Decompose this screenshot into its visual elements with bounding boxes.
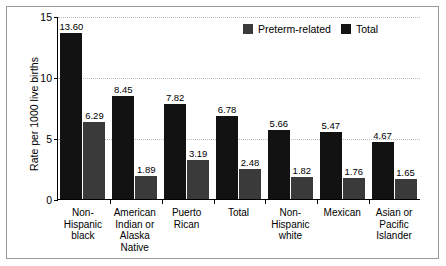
y-tick-label-10: 10 — [40, 72, 52, 84]
x-axis-label-line: Non- — [264, 207, 316, 219]
bar-total: 7.82 — [164, 104, 186, 199]
bar-value-label: 13.60 — [60, 21, 84, 32]
x-axis-label-line: Indian or — [109, 219, 161, 231]
x-axis-tick — [317, 199, 318, 204]
gridline-15 — [58, 17, 420, 18]
x-axis-label-line: American — [109, 207, 161, 219]
y-tick-mark-10 — [54, 78, 58, 79]
bar-total: 6.78 — [216, 116, 238, 199]
bar-total: 5.47 — [320, 132, 342, 199]
x-axis-label-line: Alaska — [109, 230, 161, 242]
x-axis-label-4: Non-Hispanicwhite — [264, 207, 316, 242]
x-axis-tick — [110, 199, 111, 204]
x-axis-label-2: PuertoRican — [161, 207, 213, 230]
legend-label: Preterm-related — [258, 23, 331, 35]
bar-value-label: 4.67 — [373, 130, 392, 141]
x-axis-label-3: Total — [213, 207, 265, 219]
bar-preterm: 1.76 — [343, 178, 365, 199]
x-axis-tick — [214, 199, 215, 204]
bar-value-label: 1.65 — [396, 167, 415, 178]
x-axis-tick — [265, 199, 266, 204]
bar-value-label: 5.66 — [270, 118, 289, 129]
legend-swatch-icon — [341, 24, 351, 34]
y-axis-title: Rate per 1000 live births — [28, 34, 40, 194]
bar-value-label: 1.76 — [344, 166, 363, 177]
y-tick-label-0: 0 — [46, 194, 52, 206]
x-axis-tick — [369, 199, 370, 204]
x-axis-label-line: Pacific — [368, 219, 420, 231]
bar-total: 8.45 — [112, 96, 134, 199]
x-axis-label-5: Mexican — [316, 207, 368, 219]
x-axis-label-0: Non-Hispanicblack — [57, 207, 109, 242]
bar-total: 4.67 — [372, 142, 394, 199]
x-axis-label-line: Hispanic — [264, 219, 316, 231]
bar-value-label: 2.48 — [241, 157, 260, 168]
x-axis-label-line: Puerto — [161, 207, 213, 219]
x-axis-label-line: black — [57, 230, 109, 242]
bar-preterm: 1.65 — [395, 179, 417, 199]
y-tick-mark-15 — [54, 17, 58, 18]
x-axis-label-line: Native — [109, 242, 161, 254]
legend-entry: Total — [341, 23, 378, 35]
bar-value-label: 3.19 — [189, 148, 208, 159]
x-axis-label-line: Rican — [161, 219, 213, 231]
bar-value-label: 6.78 — [218, 104, 237, 115]
x-axis-tick — [162, 199, 163, 204]
x-axis-label-line: Non- — [57, 207, 109, 219]
chart-legend: Preterm-relatedTotal — [243, 23, 378, 35]
gridline-10 — [58, 78, 420, 79]
x-axis-label-line: Asian or — [368, 207, 420, 219]
y-tick-label-15: 15 — [40, 11, 52, 23]
x-axis-label-line: Hispanic — [57, 219, 109, 231]
bar-preterm: 3.19 — [187, 160, 209, 199]
bar-value-label: 5.47 — [321, 120, 340, 131]
x-axis-label-1: AmericanIndian orAlaskaNative — [109, 207, 161, 253]
x-axis-label-line: Total — [213, 207, 265, 219]
x-axis-label-6: Asian orPacificIslander — [368, 207, 420, 242]
bar-total: 13.60 — [60, 33, 82, 199]
chart-screenshot: Rate per 1000 live births 15105013.606.2… — [0, 0, 446, 266]
x-axis-label-line: Mexican — [316, 207, 368, 219]
bar-value-label: 1.82 — [293, 165, 312, 176]
bar-preterm: 6.29 — [83, 122, 105, 199]
legend-label: Total — [356, 23, 378, 35]
x-axis-label-line: white — [264, 230, 316, 242]
bar-value-label: 6.29 — [85, 110, 104, 121]
bar-preterm: 1.82 — [291, 177, 313, 199]
bar-value-label: 7.82 — [166, 92, 185, 103]
y-tick-mark-0 — [54, 200, 58, 201]
legend-entry: Preterm-related — [243, 23, 331, 35]
bar-total: 5.66 — [268, 130, 290, 199]
bar-preterm: 2.48 — [239, 169, 261, 199]
bar-value-label: 8.45 — [114, 84, 133, 95]
bar-preterm: 1.89 — [135, 176, 157, 199]
bar-value-label: 1.89 — [137, 164, 156, 175]
legend-swatch-icon — [243, 24, 253, 34]
y-tick-mark-5 — [54, 139, 58, 140]
x-axis-label-line: Islander — [368, 230, 420, 242]
plot-area: 15105013.606.298.451.897.823.196.782.485… — [57, 17, 420, 200]
y-tick-label-5: 5 — [46, 133, 52, 145]
